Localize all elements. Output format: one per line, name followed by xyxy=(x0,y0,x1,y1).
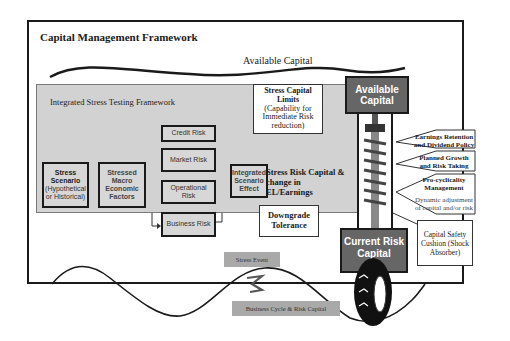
available-capital-curve-label: Available Capital xyxy=(243,55,313,66)
earnings-retention-label: Earnings Retention and Dividend Policy xyxy=(413,133,475,149)
shock-absorber-icon xyxy=(357,108,393,238)
market-risk-box: Market Risk xyxy=(161,148,216,172)
tire-icon xyxy=(353,258,395,330)
business-cycle-tag: Business Cycle & Risk Capital xyxy=(232,301,340,316)
stress-scenario-box: Stress Scenario(Hypothetical or Historic… xyxy=(42,162,89,208)
stress-testing-title: Integrated Stress Testing Framework xyxy=(50,97,175,107)
stress-scenario-sub: (Hypothetical or Historical) xyxy=(45,185,86,200)
downgrade-tolerance-box: Downgrade Tolerance xyxy=(259,205,319,237)
integrated-scenario-box: Integrated Scenario Effect xyxy=(230,164,268,198)
operational-risk-box: Operational Risk xyxy=(161,180,216,204)
planned-growth-label: Planned Growth and Risk Taking xyxy=(413,154,475,170)
capital-safety-cushion-box: Capital Safety Cushion (Shock Absorber) xyxy=(417,220,473,266)
business-risk-box: Business Risk xyxy=(161,212,216,237)
stress-capital-limits-box: Stress Capital Limits(Capability for Imm… xyxy=(253,84,323,134)
macro-factors-box: Stressed Macro Economic Factors xyxy=(98,162,146,208)
available-capital-box: Available Capital xyxy=(345,76,409,114)
credit-risk-box: Credit Risk xyxy=(161,125,216,142)
limits-sub: (Capability for Immediate Risk reduction… xyxy=(263,104,314,131)
stress-scenario-label: Stress Scenario xyxy=(51,169,81,184)
stress-risk-capital-label: Stress Risk Capital & change in EL/Earni… xyxy=(266,168,346,197)
procyclicality-label: Pro-cyclicality Management xyxy=(413,176,475,192)
stress-event-tag: Stress Event xyxy=(224,252,280,267)
procyclicality-sub: Dynamic adjustment of capital and/or ris… xyxy=(413,196,475,212)
limits-label: Stress Capital Limits xyxy=(264,86,312,104)
